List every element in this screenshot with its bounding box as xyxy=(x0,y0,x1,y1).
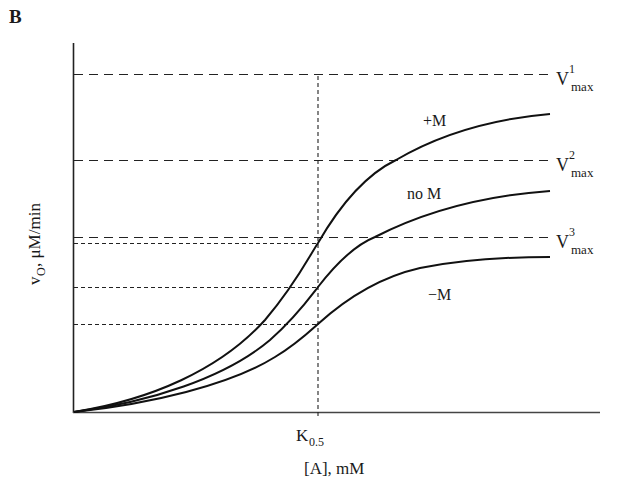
svg-text:V: V xyxy=(556,155,569,175)
svg-text:, μM/min: , μM/min xyxy=(25,203,44,267)
curves xyxy=(74,114,550,412)
svg-text:V: V xyxy=(556,232,569,252)
k05-tick-label: K 0.5 xyxy=(296,426,324,449)
svg-text:O: O xyxy=(34,267,48,276)
curve-no-m xyxy=(74,191,550,412)
svg-text:max: max xyxy=(571,242,594,257)
svg-text:V: V xyxy=(556,69,569,89)
chart-svg: +M no M −M V 1 max V 2 max V 3 max K 0.5… xyxy=(0,0,620,492)
vmax-label-3: V 3 max xyxy=(556,225,594,257)
y-axis-label: v O , μM/min xyxy=(25,203,48,285)
svg-text:v: v xyxy=(25,276,44,285)
label-minus-m: −M xyxy=(428,286,451,303)
kinetics-figure: B +M no M −M V 1 xyxy=(0,0,620,492)
svg-text:K: K xyxy=(296,426,309,445)
svg-text:0.5: 0.5 xyxy=(309,435,324,449)
svg-text:2: 2 xyxy=(569,148,575,162)
svg-text:1: 1 xyxy=(569,62,575,76)
curve-minus-m xyxy=(74,257,550,412)
vmax-label-1: V 1 max xyxy=(556,62,594,94)
k05-lines xyxy=(74,76,318,416)
label-no-m: no M xyxy=(407,185,441,202)
vmax-lines xyxy=(74,75,550,238)
curve-plus-m xyxy=(74,114,550,412)
x-axis-label: [A], mM xyxy=(304,459,364,478)
vmax-label-2: V 2 max xyxy=(556,148,594,180)
label-plus-m: +M xyxy=(423,112,446,129)
svg-text:max: max xyxy=(571,79,594,94)
svg-text:3: 3 xyxy=(569,225,575,239)
panel-label: B xyxy=(9,6,22,28)
svg-text:max: max xyxy=(571,165,594,180)
